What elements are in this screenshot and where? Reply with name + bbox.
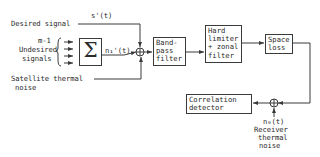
undesired-label-line1: Undesired xyxy=(19,46,57,54)
interference-symbol: n₁'(t) xyxy=(105,47,130,55)
desired-signal-symbol: s'(t) xyxy=(91,12,112,20)
desired-signal-label: Desired signal xyxy=(11,20,70,28)
bandpass-filter-block: Band- pass filter xyxy=(153,37,186,66)
satellite-noise-label-line1: Satellite thermal xyxy=(11,75,83,83)
hard-limiter-zonal-filter-block: Hard limiter + zonal filter xyxy=(205,25,242,63)
receiver-noise-line3: noise xyxy=(259,142,280,150)
undesired-count-label: m-1 xyxy=(38,37,51,45)
space-loss-block: Space loss xyxy=(265,34,293,54)
undesired-label-line2: signals xyxy=(22,55,52,63)
correlation-detector-block: Correlation detector xyxy=(186,94,252,114)
summer-block: Σ xyxy=(79,38,102,66)
sum-junction-receiver xyxy=(270,99,278,107)
satellite-noise-label-line2: noise xyxy=(15,84,36,92)
sum-junction-satellite xyxy=(136,48,144,56)
